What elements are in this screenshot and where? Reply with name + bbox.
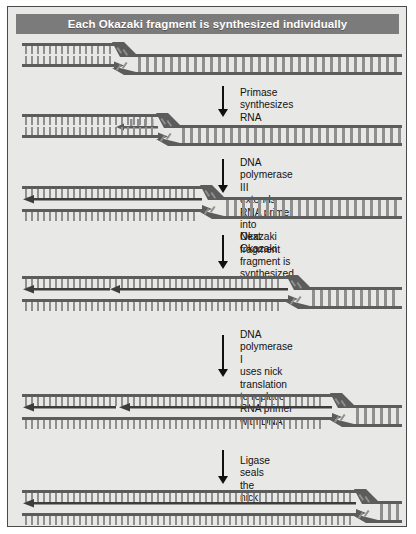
leading-strand (22, 127, 168, 141)
panel-3-dna (8, 181, 407, 229)
replication-fork (286, 275, 310, 309)
parental-duplex (134, 54, 402, 75)
leading-strand (22, 56, 124, 70)
panel-1 (8, 38, 407, 84)
panel-2-dna (8, 109, 407, 155)
top-template-strand (22, 43, 116, 54)
parental-duplex (376, 501, 402, 523)
leading-strand (22, 413, 342, 429)
top-template-strand (22, 490, 358, 502)
panel-5 (8, 389, 407, 437)
panel-6-dna (8, 485, 407, 527)
leading-strand (22, 205, 212, 221)
top-template-strand (22, 276, 290, 288)
arrow-down-icon (218, 235, 229, 269)
panel-5-dna (8, 389, 407, 437)
replication-fork (330, 393, 354, 427)
arrow-down-icon (218, 335, 229, 379)
parental-duplex (178, 125, 402, 146)
okazaki-fragment-1 (23, 403, 116, 412)
panel-3 (8, 181, 407, 229)
arrow-down-icon (218, 450, 229, 484)
panel-4-dna (8, 271, 407, 319)
panel-2 (8, 109, 407, 155)
replication-fork (200, 185, 224, 219)
replication-fork (156, 113, 180, 146)
top-template-strand (22, 394, 334, 406)
top-template-strand (22, 186, 204, 198)
parental-duplex (308, 287, 402, 309)
figure-title: Each Okazaki fragment is synthesized ind… (68, 18, 348, 30)
replication-fork (112, 42, 136, 75)
leading-strand (22, 295, 298, 311)
panel-4 (8, 271, 407, 319)
okazaki-fragment-1 (23, 285, 110, 294)
okazaki-fragment-2 (119, 403, 332, 412)
panel-1-dna (8, 38, 407, 84)
figure-panel: Each Okazaki fragment is synthesized ind… (7, 6, 407, 527)
figure-title-bar: Each Okazaki fragment is synthesized ind… (16, 14, 399, 34)
panel-6 (8, 485, 407, 527)
replication-fork (354, 489, 378, 523)
parental-duplex (222, 197, 402, 219)
sealed-lagging-strand (23, 499, 356, 508)
parental-duplex (352, 405, 402, 427)
leading-strand (22, 509, 366, 525)
